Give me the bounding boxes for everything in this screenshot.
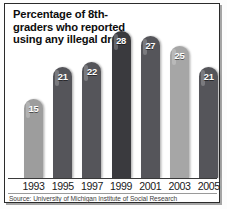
bar-2005: 21 [199, 67, 218, 178]
x-axis-labels: 1993199519971999200120032005 [8, 180, 217, 194]
bar-2003: 25 [170, 46, 189, 178]
x-tick-2001: 2001 [135, 180, 165, 192]
bar-value-label: 21 [53, 71, 72, 82]
bar-1999: 28 [112, 31, 131, 178]
plot-area: 15212228272521 [8, 6, 216, 178]
bar-2001: 27 [141, 36, 160, 178]
x-tick-1993: 1993 [19, 180, 49, 192]
chart-figure: Percentage of 8th-graders who reported u… [0, 0, 227, 209]
bar-1993: 15 [24, 99, 43, 178]
x-tick-1997: 1997 [77, 180, 107, 192]
bar-1997: 22 [82, 62, 101, 178]
x-tick-1999: 1999 [106, 180, 136, 192]
source-note: Source: University of Michigan Institute… [9, 195, 177, 202]
bar-value-label: 22 [82, 66, 101, 77]
bar-value-label: 21 [199, 71, 218, 82]
bar-value-label: 27 [141, 40, 160, 51]
footer-divider [8, 193, 217, 194]
bar-value-label: 28 [112, 35, 131, 46]
x-tick-1995: 1995 [48, 180, 78, 192]
axis-baseline [8, 178, 217, 179]
x-tick-2005: 2005 [194, 180, 224, 192]
x-tick-2003: 2003 [165, 180, 195, 192]
bar-value-label: 25 [170, 50, 189, 61]
bar-value-label: 15 [24, 103, 43, 114]
bar-1995: 21 [53, 67, 72, 178]
